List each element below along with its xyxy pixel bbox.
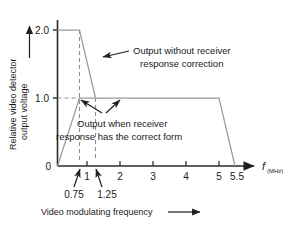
callout-label-1-25: 1.25 xyxy=(97,189,117,200)
x-axis-title: Video modulating frequency xyxy=(41,207,153,217)
annotation-upper-line1: Output without receiver xyxy=(133,45,231,56)
x-tick-label-5-5: 5.5 xyxy=(230,171,244,182)
y-tick-label-0: 0 xyxy=(45,161,51,172)
callout-label-0-75: 0.75 xyxy=(64,189,84,200)
x-tick-label-5: 5 xyxy=(216,171,222,182)
y-tick-label-2: 2.0 xyxy=(35,25,49,36)
y-axis-title-line2: output voltage xyxy=(19,83,29,140)
annotation-lower-line2: response has the correct form xyxy=(56,131,182,142)
x-tick-label-3: 3 xyxy=(150,171,156,182)
x-tick-label-4: 4 xyxy=(183,171,189,182)
y-axis-title-line1: Relative video detector xyxy=(8,58,18,150)
chart-canvas: 2.0 1.0 0 1 2 3 4 5 5.5 0.75 1.25 f (MHz… xyxy=(0,0,295,228)
x-tick-label-2: 2 xyxy=(117,171,123,182)
x-axis-unit: (MHz) xyxy=(267,168,283,174)
y-tick-label-1: 1.0 xyxy=(35,93,49,104)
video-detector-response-chart: 2.0 1.0 0 1 2 3 4 5 5.5 0.75 1.25 f (MHz… xyxy=(0,0,295,228)
annotation-lower-line1: Output when receiver xyxy=(77,118,167,129)
x-tick-label-1: 1 xyxy=(84,171,90,182)
annotation-upper-line2: response correction xyxy=(140,58,223,69)
